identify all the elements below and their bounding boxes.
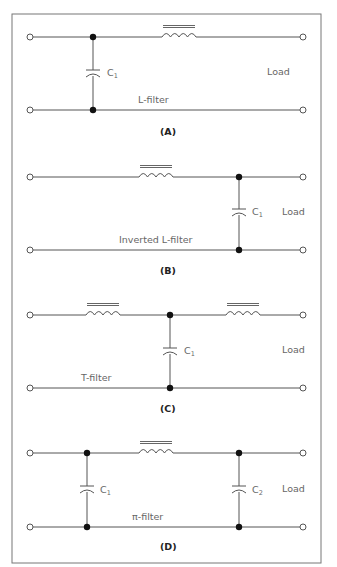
inductor-icon: [162, 26, 196, 38]
filter-name: π-filter: [132, 511, 163, 522]
terminal-icon: [300, 174, 306, 180]
filter-name: Inverted L-filter: [119, 234, 193, 245]
filter-name: L-filter: [138, 94, 169, 105]
terminal-icon: [27, 524, 33, 530]
junction-dot-icon: [84, 450, 90, 456]
terminal-icon: [300, 450, 306, 456]
inductor-icon: [139, 166, 173, 178]
junction-dot-icon: [236, 450, 242, 456]
load-label: Load: [267, 66, 290, 77]
junction-dot-icon: [167, 312, 173, 318]
junction-dot-icon: [236, 247, 242, 253]
panel-c-t-filter: C1 Load T-filter (C): [27, 304, 306, 415]
junction-dot-icon: [167, 385, 173, 391]
terminal-icon: [300, 524, 306, 530]
capacitor-icon: [232, 209, 246, 216]
panel-b-inverted-l-filter: C1 Load Inverted L-filter (B): [27, 166, 306, 277]
panel-d-pi-filter: C1 C2 Load π-filter (D): [27, 442, 306, 553]
terminal-icon: [27, 450, 33, 456]
panel-caption: (D): [160, 541, 177, 552]
capacitor-label: C1: [100, 484, 111, 497]
panel-caption: (C): [160, 403, 176, 414]
load-label: Load: [282, 483, 305, 494]
capacitor-label: C1: [252, 206, 263, 219]
junction-dot-icon: [90, 34, 96, 40]
terminal-icon: [27, 312, 33, 318]
capacitor-icon: [232, 486, 246, 493]
capacitor-icon: [163, 348, 177, 355]
inductor-icon: [139, 442, 173, 454]
capacitor-label: C2: [252, 484, 263, 497]
junction-dot-icon: [236, 174, 242, 180]
terminal-icon: [300, 385, 306, 391]
terminal-icon: [300, 247, 306, 253]
terminal-icon: [27, 174, 33, 180]
filter-circuits-diagram: C1 Load L-filter (A) C1 Load Inverted L-…: [0, 0, 337, 567]
terminal-icon: [27, 385, 33, 391]
terminal-icon: [300, 312, 306, 318]
terminal-icon: [27, 247, 33, 253]
load-label: Load: [282, 206, 305, 217]
capacitor-icon: [80, 486, 94, 493]
terminal-icon: [300, 107, 306, 113]
filter-name: T-filter: [80, 372, 112, 383]
panel-caption: (B): [160, 265, 176, 276]
panel-a-l-filter: C1 Load L-filter (A): [27, 26, 306, 138]
capacitor-label: C1: [184, 345, 195, 358]
capacitor-icon: [86, 70, 100, 77]
terminal-icon: [300, 34, 306, 40]
terminal-icon: [27, 107, 33, 113]
capacitor-label: C1: [107, 67, 118, 80]
load-label: Load: [282, 344, 305, 355]
junction-dot-icon: [90, 107, 96, 113]
junction-dot-icon: [236, 524, 242, 530]
terminal-icon: [27, 34, 33, 40]
panel-caption: (A): [160, 126, 176, 137]
inductor-icon: [226, 304, 260, 316]
inductor-icon: [86, 304, 120, 316]
junction-dot-icon: [84, 524, 90, 530]
